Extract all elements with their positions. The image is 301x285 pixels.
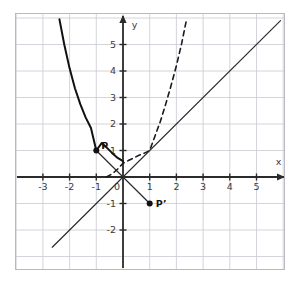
y-tick-label-neg1: -1: [107, 198, 116, 209]
y-tick-label-4: 4: [110, 65, 116, 76]
graph-figure: -3-2-1012345-2-112345PP’xy: [0, 0, 301, 285]
y-tick-label-3: 3: [110, 92, 116, 103]
x-tick-label-neg2: -2: [65, 181, 74, 192]
x-tick-label-3: 3: [200, 181, 206, 192]
y-axis-label: y: [132, 19, 138, 30]
x-tick-label-1: 1: [147, 181, 153, 192]
y-tick-label-5: 5: [110, 39, 116, 50]
point-label-Pprime: P’: [156, 198, 167, 209]
point-marker-Pprime: [147, 201, 153, 207]
x-axis-label: x: [276, 156, 282, 167]
x-tick-label-neg3: -3: [38, 181, 47, 192]
point-marker-P: [93, 148, 99, 154]
y-tick-label-neg2: -2: [107, 224, 116, 235]
x-tick-label-4: 4: [227, 181, 233, 192]
x-tick-label-neg1: -1: [92, 181, 101, 192]
coordinate-plane: -3-2-1012345-2-112345PP’xy: [0, 0, 301, 285]
point-label-P: P: [101, 140, 108, 151]
y-tick-label-2: 2: [110, 118, 116, 129]
x-tick-label-5: 5: [253, 181, 259, 192]
x-tick-label-2: 2: [173, 181, 179, 192]
